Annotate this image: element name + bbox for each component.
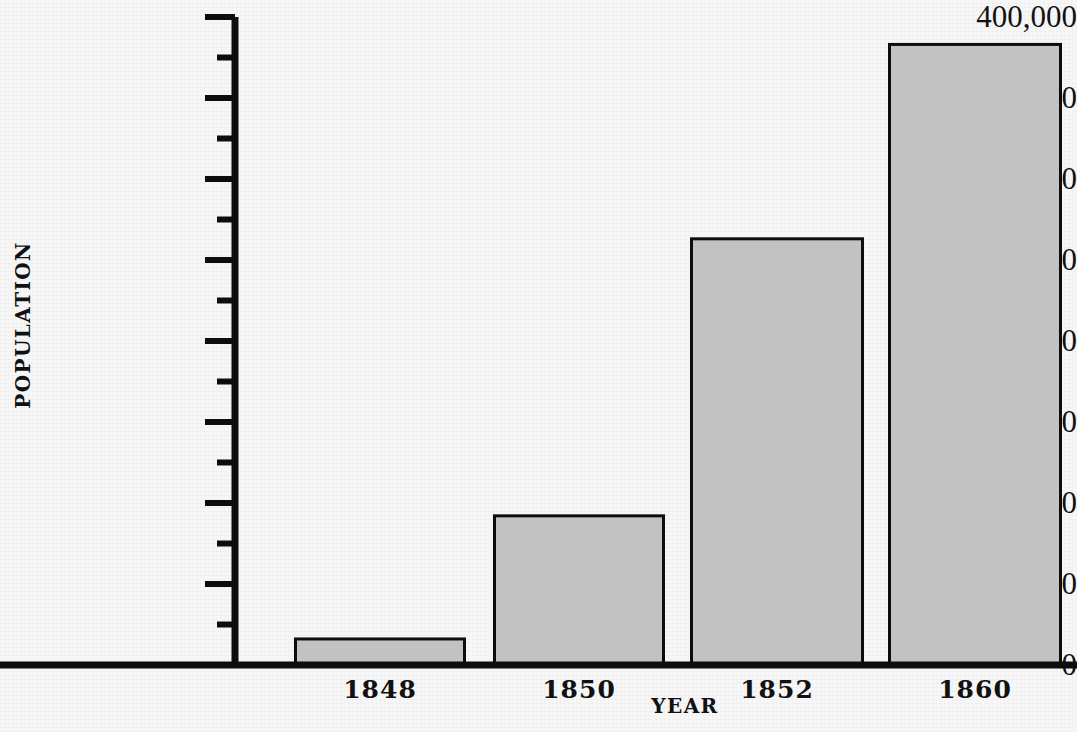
plot-area — [0, 0, 1077, 732]
bar-chart-figure: POPULATION 050,000100,000150,000200,0002… — [0, 0, 1077, 732]
bar-1848 — [296, 639, 465, 665]
x-tick-label-1848: 1848 — [310, 675, 450, 704]
bar-1850 — [495, 516, 664, 665]
bar-1860 — [890, 44, 1061, 665]
bars-group — [296, 44, 1061, 665]
x-axis-title: YEAR — [585, 694, 785, 718]
x-tick-label-1860: 1860 — [905, 675, 1045, 704]
bar-1852 — [692, 239, 863, 665]
